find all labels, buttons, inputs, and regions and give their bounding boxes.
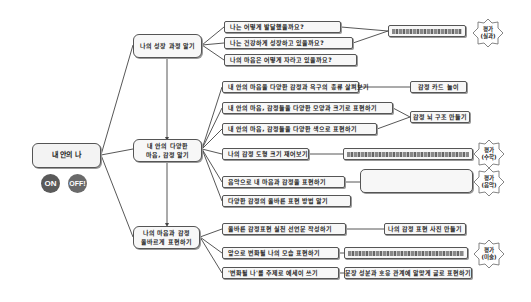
off-button[interactable]: OFF! [68, 174, 87, 193]
evaluation-badge-music: 평가(음악) [473, 167, 505, 197]
topic-declaration: 올바른 감정표현 실천 선언문 작성하기 [222, 223, 346, 235]
activity-redacted-4 [344, 247, 468, 259]
evaluation-badge-art: 평가(미술) [473, 239, 505, 269]
topic-emotion-colors: 내 안의 마음, 감정들을 다양한 색으로 표현하기 [222, 123, 377, 135]
topic-measure-emotion-shapes: 나의 감정 도형 크기 재어보기 [222, 148, 309, 160]
activity-sentence-writing: 문장 성분과 호응 관계에 알맞게 글로 표현하기 [344, 267, 472, 279]
root-label: 내 안의 나 [52, 151, 81, 160]
activity-redacted-2 [343, 148, 473, 160]
evaluation-badge-math: 평가(수학) [473, 139, 505, 169]
redacted-text [348, 251, 464, 256]
topic-future-self: 앞으로 변화될 나의 모습 표현하기 [222, 247, 339, 259]
activity-emotion-cards: 감정 카드 놀이 [410, 81, 467, 93]
activity-emotion-photo: 나의 감정 표현 사진 만들기 [384, 223, 466, 235]
branch-express-properly: 나의 마음과 감정 올바르게 표현하기 [133, 226, 200, 249]
redacted-text [392, 29, 462, 34]
on-button[interactable]: ON [41, 174, 60, 193]
topic-how-developed: 나는 어떻게 발달했을까요? [224, 21, 341, 33]
branch-growth-process: 나의 성장 과정 알기 [133, 34, 202, 58]
topic-emotion-types: 내 안의 마음을 다양한 감정과 욕구의 종류 살펴보기 [222, 81, 359, 93]
evaluation-badge-practical: 평가(실과) [472, 18, 504, 48]
topic-mind-growth: 나의 마음은 어떻게 자라고 있을까요? [224, 54, 357, 66]
topic-healthy-growth: 나는 건강하게 성장하고 있을까요? [224, 37, 353, 49]
topic-music-emotions: 음악으로 내 마음과 감정을 표현하기 [222, 176, 345, 188]
topic-proper-expression: 다양한 감정의 올바른 표현 방법 알기 [222, 195, 351, 207]
activity-redacted-3 [360, 169, 473, 193]
root-node: 내 안의 나 [32, 143, 101, 168]
redacted-text [347, 152, 469, 157]
branch-various-emotions: 내 안의 다양한 마음, 감정 알기 [133, 139, 202, 162]
activity-redacted-1 [388, 25, 466, 37]
activity-emotion-brain: 감정 뇌 구조 만들기 [410, 111, 470, 123]
topic-essay: '변화될 나'를 주제로 에세이 쓰기 [222, 267, 339, 279]
topic-emotion-shapes: 내 안의 마음, 감정들을 다양한 모양과 크기로 표현하기 [222, 102, 393, 114]
